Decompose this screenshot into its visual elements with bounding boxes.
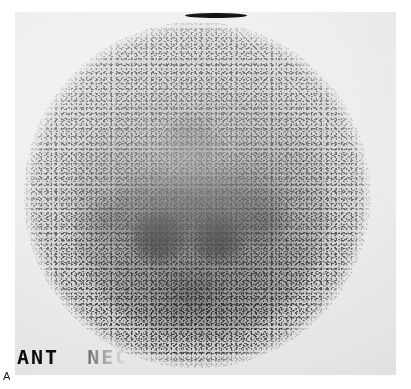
photon-speckle-scatter <box>24 22 370 368</box>
gamma-camera-field-of-view <box>24 22 370 368</box>
scintigram-film: ANT NEC <box>15 12 396 375</box>
panel-label: A <box>3 371 10 382</box>
view-annotation-primary: ANT <box>17 345 59 369</box>
figure-panel: ANT NEC A <box>0 0 411 389</box>
view-annotation: ANT NEC <box>17 347 129 367</box>
view-annotation-obscured: NEC <box>87 345 129 369</box>
fiducial-marker-bar <box>185 13 247 18</box>
